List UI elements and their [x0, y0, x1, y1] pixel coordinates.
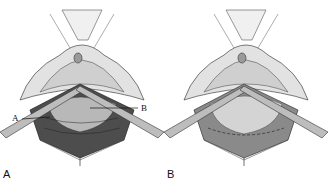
panel-a: A B A — [0, 0, 164, 184]
urethral-meatus — [238, 53, 246, 63]
panel-label-a: A — [3, 168, 10, 180]
callout-b: B — [141, 103, 147, 113]
upper-drape — [226, 10, 266, 40]
illustration-b — [164, 0, 328, 184]
urethral-meatus — [74, 53, 82, 63]
panel-label-b: B — [167, 168, 174, 180]
illustration-a — [0, 0, 164, 184]
callout-a: A — [12, 113, 19, 123]
upper-drape — [62, 10, 102, 40]
panel-b: B — [164, 0, 328, 184]
